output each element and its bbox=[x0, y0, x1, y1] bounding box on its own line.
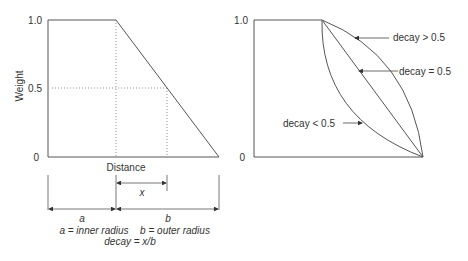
x-axis-label: Distance bbox=[107, 162, 146, 173]
left-diagram: 1.0 0.5 0 Weight Distance x a b a = inne… bbox=[14, 15, 219, 247]
right-y-tick-0: 0 bbox=[239, 152, 245, 163]
b-dimension-label: b bbox=[165, 213, 171, 224]
legend-outer-radius: b = outer radius bbox=[140, 225, 210, 236]
right-y-tick-1: 1.0 bbox=[234, 15, 248, 26]
label-decay-lt: decay < 0.5 bbox=[283, 118, 335, 129]
y-tick-05: 0.5 bbox=[28, 83, 42, 94]
weight-decay-diagram: 1.0 0.5 0 Weight Distance x a b a = inne… bbox=[0, 0, 468, 261]
x-dimension-label: x bbox=[139, 187, 146, 198]
weight-curve bbox=[48, 20, 219, 157]
y-tick-1: 1.0 bbox=[28, 15, 42, 26]
a-dimension-label: a bbox=[79, 213, 85, 224]
decay-formula: decay = x/b bbox=[104, 236, 156, 247]
y-axis-label: Weight bbox=[14, 70, 25, 101]
label-decay-eq: decay = 0.5 bbox=[399, 66, 451, 77]
label-decay-gt: decay > 0.5 bbox=[393, 32, 445, 43]
y-tick-0: 0 bbox=[33, 152, 39, 163]
legend-inner-radius: a = inner radius bbox=[59, 225, 128, 236]
right-diagram: 1.0 0 decay > 0.5 decay = 0.5 decay < 0.… bbox=[234, 15, 451, 163]
